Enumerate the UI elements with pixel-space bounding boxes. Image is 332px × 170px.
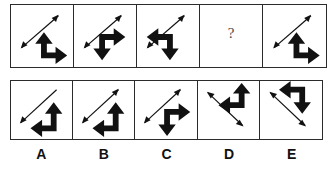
bold-corner-arrow-left-up-icon (218, 83, 250, 114)
answer-option-a[interactable] (11, 81, 73, 139)
double-headed-diagonal-arrow-icon (147, 15, 185, 49)
cell-figure (198, 81, 259, 139)
bold-corner-arrow-up-right-icon (35, 32, 67, 64)
answer-label-d: D (198, 142, 261, 166)
answer-label-a: A (10, 142, 73, 166)
question-cell-4-missing[interactable]: ? (200, 5, 263, 67)
bold-corner-arrow-left-up-icon (30, 102, 62, 137)
bold-corner-arrow-right-down-icon (159, 103, 191, 136)
answer-option-d[interactable] (198, 81, 260, 139)
bold-corner-arrow-left-down-icon (279, 81, 311, 114)
answer-option-c[interactable] (135, 81, 197, 139)
answer-row (10, 80, 323, 140)
bold-corner-arrow-left-up-icon (93, 102, 125, 137)
answer-labels: A B C D E (10, 142, 323, 166)
cell-figure (73, 81, 134, 139)
cell-figure (74, 5, 136, 67)
question-cell-3[interactable] (137, 5, 200, 67)
question-cell-2[interactable] (74, 5, 137, 67)
answer-label-e: E (260, 142, 323, 166)
cell-figure (11, 81, 72, 139)
answer-option-e[interactable] (260, 81, 322, 139)
cell-figure (260, 81, 322, 139)
question-cell-5[interactable] (263, 5, 326, 67)
question-cell-1[interactable] (11, 5, 74, 67)
bold-corner-arrow-up-right-icon (288, 32, 320, 64)
puzzle-sheet: ? (0, 0, 332, 170)
cell-figure (263, 5, 326, 67)
answer-label-c: C (135, 142, 198, 166)
answer-label-b: B (73, 142, 136, 166)
cell-figure (11, 5, 73, 67)
answer-option-b[interactable] (73, 81, 135, 139)
cell-figure (137, 5, 199, 67)
question-row: ? (10, 4, 327, 68)
bold-corner-arrow-right-down-icon (93, 28, 125, 60)
double-headed-diagonal-arrow-icon (144, 89, 181, 124)
cell-figure (135, 81, 196, 139)
question-mark: ? (200, 5, 262, 67)
